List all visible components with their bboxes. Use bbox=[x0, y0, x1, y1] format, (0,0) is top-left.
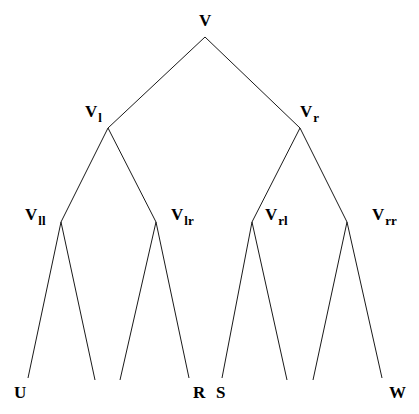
node-vll-subscript: ll bbox=[38, 213, 45, 228]
edge-vll-leaf2 bbox=[61, 222, 95, 380]
node-label-vrr: Vrr bbox=[372, 206, 397, 223]
leaf-label-r: R bbox=[193, 384, 205, 401]
edge-vlr-r bbox=[156, 222, 189, 378]
edge-vl-vlr bbox=[108, 128, 156, 222]
edge-vrr-w bbox=[347, 222, 382, 378]
node-label-vll: Vll bbox=[25, 206, 46, 223]
edge-v-vl bbox=[108, 37, 205, 128]
edge-vrl-s bbox=[222, 222, 252, 378]
tree-diagram bbox=[0, 0, 419, 414]
node-vrl-text: V bbox=[265, 205, 277, 224]
node-vll-text: V bbox=[25, 205, 37, 224]
node-label-vl: Vl bbox=[85, 103, 102, 120]
node-vrl-subscript: rl bbox=[278, 213, 287, 228]
edge-vrl-leaf6 bbox=[252, 222, 287, 380]
node-vrr-text: V bbox=[372, 205, 384, 224]
node-vlr-text: V bbox=[171, 205, 183, 224]
node-label-vlr: Vlr bbox=[171, 206, 194, 223]
node-v-text: V bbox=[199, 11, 211, 30]
node-vl-subscript: l bbox=[98, 110, 102, 125]
node-label-vrl: Vrl bbox=[265, 206, 288, 223]
edge-vrr-leaf7 bbox=[313, 222, 347, 380]
edge-vr-vrr bbox=[300, 128, 347, 222]
node-label-v: V bbox=[199, 12, 211, 29]
node-vlr-subscript: lr bbox=[184, 213, 193, 228]
edge-vl-vll bbox=[61, 128, 108, 222]
leaf-label-w: W bbox=[389, 384, 406, 401]
node-vr-text: V bbox=[300, 102, 312, 121]
edge-vlr-leaf3 bbox=[120, 222, 156, 380]
node-label-vr: Vr bbox=[300, 103, 319, 120]
leaf-label-s: S bbox=[216, 384, 225, 401]
node-vl-text: V bbox=[85, 102, 97, 121]
node-vr-subscript: r bbox=[313, 110, 319, 125]
node-vrr-subscript: rr bbox=[385, 213, 397, 228]
edge-vll-u bbox=[28, 222, 61, 378]
edge-v-vr bbox=[205, 37, 300, 128]
leaf-label-u: U bbox=[14, 384, 26, 401]
